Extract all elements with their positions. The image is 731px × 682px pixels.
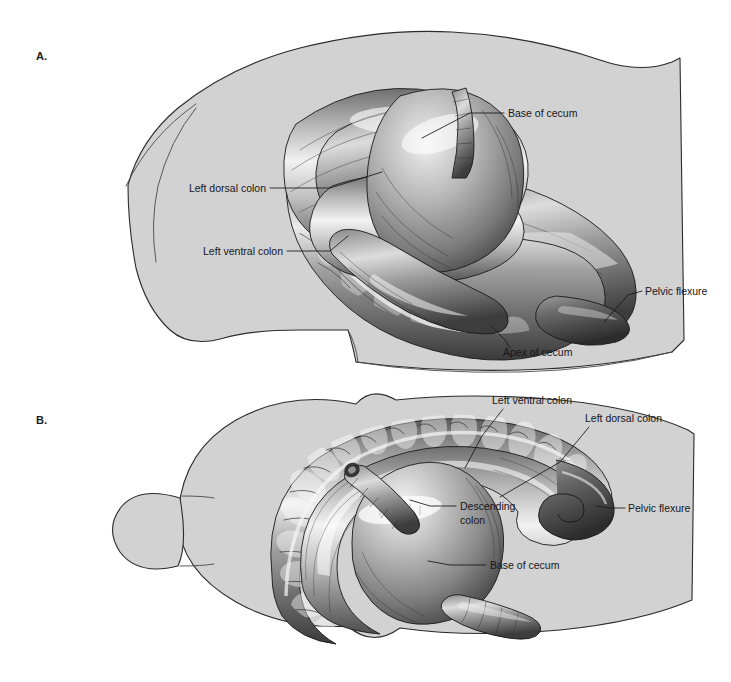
body-tail-lobe	[112, 494, 183, 569]
label-left-dorsal-colon: Left dorsal colon	[189, 182, 266, 194]
label-base-of-cecum: Base of cecum	[508, 107, 578, 119]
label-base-of-cecum-b: Base of cecum	[490, 559, 560, 571]
label-pelvic-flexure-b: Pelvic flexure	[628, 502, 691, 514]
anatomy-illustration: Base of cecum Left dorsal colon Left ven…	[0, 0, 731, 682]
label-left-dorsal-colon-b: Left dorsal colon	[585, 412, 662, 424]
panel-b: Left ventral colon Left dorsal colon Des…	[36, 394, 694, 647]
panel-a-letter: A.	[36, 50, 47, 62]
figure-root: Base of cecum Left dorsal colon Left ven…	[0, 0, 731, 682]
panel-b-letter: B.	[36, 414, 47, 426]
label-apex-of-cecum: Apex of cecum	[503, 346, 573, 358]
label-descending-colon-line1: Descending	[460, 500, 516, 512]
label-descending-colon-line2: colon	[460, 514, 485, 526]
label-left-ventral-colon-b: Left ventral colon	[492, 394, 572, 406]
panel-a: Base of cecum Left dorsal colon Left ven…	[36, 31, 708, 372]
label-left-ventral-colon: Left ventral colon	[203, 245, 283, 257]
label-pelvic-flexure: Pelvic flexure	[645, 285, 708, 297]
